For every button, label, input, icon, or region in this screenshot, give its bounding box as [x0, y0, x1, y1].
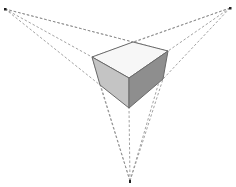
guide-left-to-top-left — [5, 9, 92, 57]
guide-bottom-to-bottom-front — [129, 108, 130, 181]
vanishing-point-bottom — [129, 180, 131, 183]
vanishing-point-right — [229, 7, 232, 10]
diagram-canvas — [0, 0, 236, 187]
guide-right-to-bottom-right — [163, 8, 230, 79]
perspective-diagram — [0, 0, 236, 187]
vanishing-point-left — [4, 8, 7, 11]
guide-left-to-bottom-left — [5, 9, 100, 85]
guide-right-to-top-right — [168, 8, 230, 51]
